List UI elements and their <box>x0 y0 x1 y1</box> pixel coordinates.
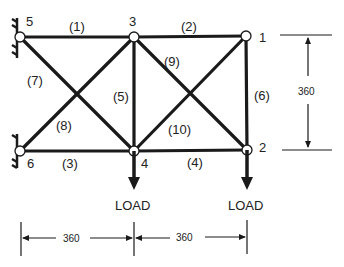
member-label-5: (5) <box>113 89 129 104</box>
node-1 <box>241 31 251 41</box>
load-label-node-4: LOAD <box>115 198 150 213</box>
truss-diagram: 5 3 1 6 4 2 (1) (2) (3) (4) (5) (6) (7) … <box>0 0 344 267</box>
node-label-5: 5 <box>26 14 33 29</box>
member-label-7: (7) <box>27 73 43 88</box>
dimension-height-label: 360 <box>298 86 315 97</box>
node-3 <box>129 32 139 42</box>
member-label-3: (3) <box>62 156 78 171</box>
node-5 <box>15 32 25 42</box>
dimension-spans <box>21 220 247 256</box>
member-label-8: (8) <box>56 118 72 133</box>
member-4 <box>134 150 247 151</box>
dimension-span-left-label: 360 <box>63 233 80 244</box>
node-label-1: 1 <box>259 30 266 45</box>
member-label-9: (9) <box>164 54 180 69</box>
dimension-span-right-label: 360 <box>176 232 193 243</box>
node-6 <box>15 146 25 156</box>
truss-members <box>20 36 247 151</box>
node-label-2: 2 <box>259 140 266 155</box>
node-label-3: 3 <box>129 14 136 29</box>
member-6 <box>246 36 247 150</box>
member-label-6: (6) <box>254 88 270 103</box>
node-label-6: 6 <box>27 156 34 171</box>
member-label-2: (2) <box>181 19 197 34</box>
member-2 <box>134 36 246 37</box>
member-label-10: (10) <box>168 122 191 137</box>
node-label-4: 4 <box>141 156 148 171</box>
member-label-1: (1) <box>69 19 85 34</box>
load-arrow-node-2 <box>241 150 253 190</box>
load-label-node-2: LOAD <box>228 198 263 213</box>
member-label-4: (4) <box>187 155 203 170</box>
load-arrow-node-4 <box>128 151 140 190</box>
